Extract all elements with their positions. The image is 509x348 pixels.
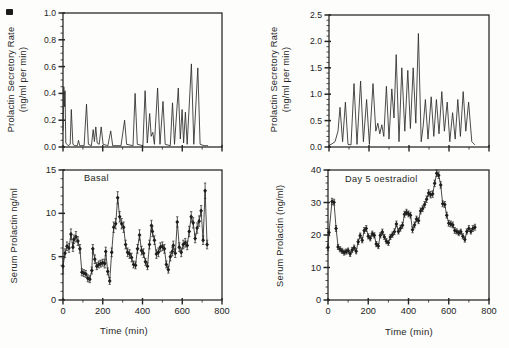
y-tick-label: 15 [46,165,56,175]
y-tick-label: 0.8 [44,35,56,45]
x-tick-label: 0 [325,306,330,316]
y-tick-label: 10 [46,208,56,218]
y-tick-label: 0.5 [310,116,322,126]
x-tick-label: 600 [175,306,190,316]
chart-serum-prolactin-basal: 0510150200400600800 [46,165,230,316]
y-tick-label: 0.4 [44,88,56,98]
y-tick-label: 20 [311,230,321,240]
y-tick-label: 30 [311,198,321,208]
chart-secretory-rate-basal: 0.00.20.40.60.81.0 [44,8,222,152]
chart-serum-prolactin-basal-markers [61,183,209,284]
x-tick-label: 400 [401,306,416,316]
x-tick-label: 0 [60,306,65,316]
y-tick-label: 40 [311,165,321,175]
y-tick-label: 0.6 [44,62,56,72]
x-axis-title-bottom-right: Time (min) [349,326,469,337]
chart-secretory-rate-oestradiol-series [329,34,475,146]
x-tick-label: 800 [214,306,229,316]
chart-serum-prolactin-oestradiol-frame [328,170,489,300]
y-axis-title-bottom-left: Serum Prolactin ng/ml [9,161,21,311]
chart-serum-prolactin-oestradiol-series [328,173,475,254]
y-tick-label: 0 [316,295,321,305]
chart-serum-prolactin-basal-frame [63,170,222,300]
y-axis-title-top-left: Prolactin Secretory Rate (ng/ml per min) [6,5,29,155]
chart-secretory-rate-basal-series [63,64,208,146]
y-tick-label: 5 [51,252,56,262]
y-axis-title-bottom-right: Serum Prolactin (ng/ml) [275,161,287,311]
x-tick-label: 200 [361,306,376,316]
y-axis-title-top-left-line1: Prolactin Secretory Rate [6,5,18,155]
y-tick-label: 1.5 [310,63,322,73]
y-tick-label: 0 [51,295,56,305]
annotation-day5-oestradiol: Day 5 oestradiol [345,174,418,184]
chart-secretory-rate-oestradiol-frame [329,15,489,147]
figure-prolactin-panel: 0.00.20.40.60.81.00.00.51.01.52.02.50510… [0,0,509,348]
y-tick-label: 0.0 [44,142,56,152]
chart-serum-prolactin-basal-series [63,191,207,281]
y-axis-title-top-right-line2: (ng/ml per min) [280,5,292,155]
x-tick-label: 200 [95,306,110,316]
y-tick-label: 0.0 [310,142,322,152]
y-axis-title-top-right: Prolactin Secretory Rate (ng/ml per min) [269,5,292,155]
y-tick-label: 1.0 [44,8,56,18]
annotation-basal: Basal [84,173,109,183]
y-tick-label: 2.5 [310,10,322,20]
y-tick-label: 0.2 [44,115,56,125]
x-tick-label: 400 [135,306,150,316]
x-tick-label: 800 [481,306,496,316]
x-tick-label: 600 [441,306,456,316]
y-axis-title-top-left-line2: (ng/ml per min) [17,5,29,155]
y-tick-label: 1.0 [310,89,322,99]
chart-serum-prolactin-oestradiol: 0102030400200400600800 [311,165,497,316]
chart-serum-prolactin-oestradiol-axes-ticks: 0102030400200400600800 [311,165,497,316]
y-tick-label: 2.0 [310,36,322,46]
chart-secretory-rate-oestradiol: 0.00.51.01.52.02.5 [310,10,489,152]
x-axis-title-bottom-left: Time (min) [64,325,184,336]
plots-canvas: 0.00.20.40.60.81.00.00.51.01.52.02.50510… [0,0,509,348]
y-tick-label: 10 [311,263,321,273]
y-axis-title-top-right-line1: Prolactin Secretory Rate [269,5,281,155]
